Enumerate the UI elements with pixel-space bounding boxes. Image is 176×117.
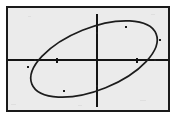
- ellipse-curve-group: [20, 8, 167, 110]
- plot-frame: [6, 6, 170, 112]
- figure-root: [0, 0, 176, 117]
- curve-node-markers: [27, 26, 161, 92]
- plot-canvas: [8, 8, 168, 110]
- ellipse-curve: [20, 8, 167, 110]
